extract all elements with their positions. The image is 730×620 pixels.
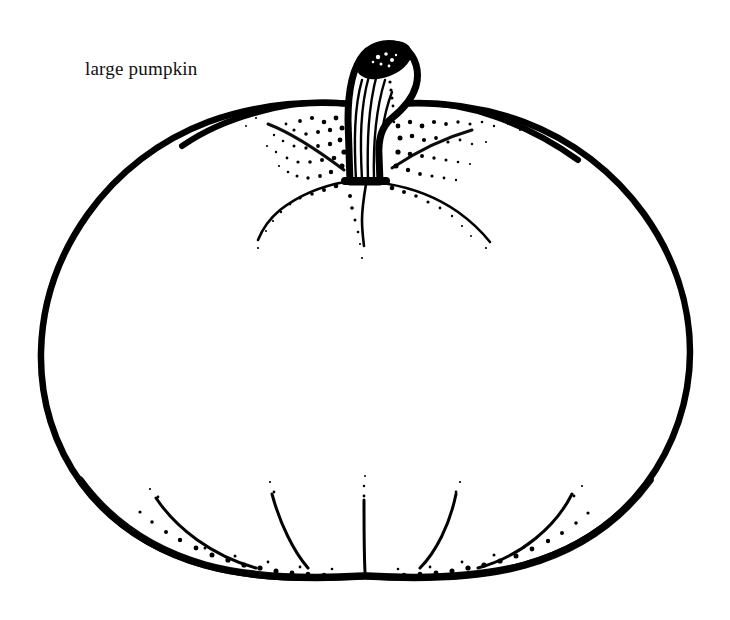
bottom-rib-center <box>364 500 365 572</box>
page-title-label: large pumpkin <box>85 58 198 80</box>
large-pumpkin-illustration <box>0 0 730 620</box>
page-canvas: large pumpkin <box>0 0 730 620</box>
